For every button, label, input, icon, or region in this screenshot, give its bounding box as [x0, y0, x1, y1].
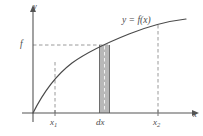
x2-subscript: 2: [157, 121, 160, 128]
f-level-label: f: [20, 40, 23, 50]
y-axis-label: y: [33, 2, 37, 11]
figure-canvas: [0, 0, 203, 136]
x2-tick-label: x2: [153, 118, 160, 127]
x1-subscript: 1: [54, 121, 57, 128]
math-figure: y x f y = f(x) x1 dx x2: [0, 0, 203, 136]
x1-tick-label: x1: [50, 118, 57, 127]
axes: [22, 5, 199, 122]
differential-strip: [99, 45, 110, 113]
x-axis-label: x: [193, 110, 197, 119]
curve-equation-label: y = f(x): [122, 16, 151, 26]
dx-label: dx: [96, 118, 105, 127]
guide-lines: [33, 25, 158, 113]
